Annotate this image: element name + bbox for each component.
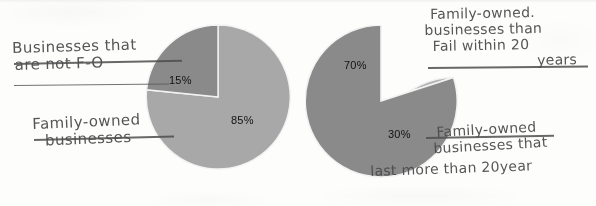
left-pie-svg [145, 24, 295, 174]
right-slice-30-label: 30% [388, 128, 411, 140]
left-slice-85-label: 85% [231, 114, 254, 126]
scanned-page: 15% 85% 70% 30% Businesses that are not … [0, 0, 596, 206]
right-slice-70-label: 70% [344, 59, 367, 71]
scan-edge-shadow [0, 0, 596, 3]
annotation-not-family-owned: Businesses that are not F-O [12, 37, 137, 75]
annotation-family-owned: Family-owned businesses [32, 111, 142, 150]
left-pie-chart [145, 24, 295, 174]
left-slice-15-label: 15% [169, 74, 192, 86]
annotation-fail-within-20: Family-owned. businesses than Fail withi… [430, 3, 577, 70]
